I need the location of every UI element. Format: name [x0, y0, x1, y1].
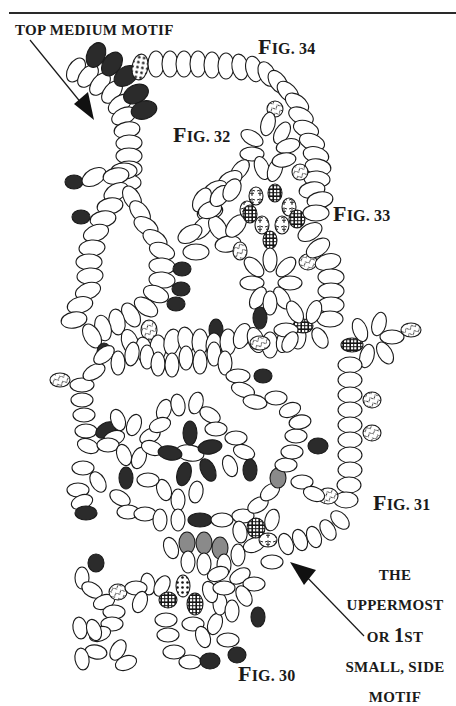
caption-line-3: OR 1ST [330, 620, 456, 652]
fig-31-number: IG. 31 [387, 496, 431, 513]
fig-31-label: FIG. 31 [373, 490, 431, 516]
caption-line-5: MOTIF [330, 682, 456, 706]
caption-or: OR [367, 629, 394, 645]
fig-31-initial: F [373, 490, 387, 515]
fig-32-number: IG. 32 [187, 128, 231, 145]
fig-30-initial: F [238, 661, 252, 686]
fig-32-initial: F [173, 122, 187, 147]
fig-32-label: FIG. 32 [173, 122, 231, 148]
fig-34-initial: F [258, 34, 272, 59]
top-medium-motif-text: TOP MEDIUM MOTIF [15, 22, 174, 38]
caption-line-2: UPPERMOST [330, 590, 456, 620]
fig-34-number: IG. 34 [272, 40, 316, 57]
caption-line-4: SMALL, SIDE [330, 652, 456, 682]
fig-30-label: FIG. 30 [238, 661, 296, 687]
side-motif-caption: THE UPPERMOST OR 1ST SMALL, SIDE MOTIF [330, 560, 456, 706]
fig-33-number: IG. 33 [347, 207, 391, 224]
top-medium-motif-label: TOP MEDIUM MOTIF [15, 22, 174, 39]
caption-st: ST [404, 629, 423, 645]
fig-30-number: IG. 30 [252, 667, 296, 684]
fig-33-initial: F [333, 201, 347, 226]
fig-33-label: FIG. 33 [333, 201, 391, 227]
fig-34-label: FIG. 34 [258, 34, 316, 60]
caption-line-1: THE [330, 560, 456, 590]
caption-one: 1 [394, 624, 404, 646]
